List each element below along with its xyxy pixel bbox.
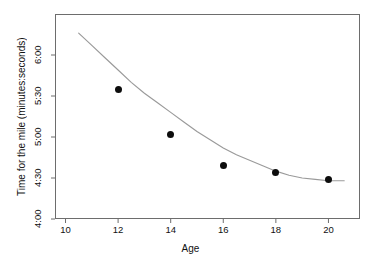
y-tick-label: 5:00 (33, 122, 43, 152)
y-tick-label: 6:00 (33, 40, 43, 70)
x-tick-label: 16 (218, 225, 229, 235)
data-point (115, 86, 122, 93)
data-point (325, 176, 332, 183)
x-tick-label: 18 (271, 225, 282, 235)
x-tick-label: 10 (60, 225, 71, 235)
data-point (220, 162, 227, 169)
y-axis-tick-marks (51, 55, 55, 219)
y-tick-label: 5:30 (33, 81, 43, 111)
x-tick-label: 14 (165, 225, 176, 235)
data-point (167, 131, 174, 138)
chart-figure: 101214161820 4:004:305:005:306:00 Age Ti… (0, 0, 381, 266)
fitted-curve (79, 33, 345, 181)
y-tick-label: 4:30 (33, 163, 43, 193)
x-tick-label: 12 (113, 225, 124, 235)
y-axis-title: Time for the mile (minutes:seconds) (14, 14, 28, 219)
x-axis-title: Age (0, 243, 381, 254)
y-tick-label: 4:00 (33, 204, 43, 234)
x-axis-tick-marks (66, 219, 329, 223)
x-tick-label: 20 (323, 225, 334, 235)
